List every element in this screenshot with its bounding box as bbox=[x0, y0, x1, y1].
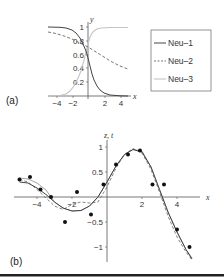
legend-label: Neu–3 bbox=[168, 74, 193, 84]
data-point bbox=[75, 190, 79, 194]
series-fit-2 bbox=[20, 149, 193, 261]
series-fit-3 bbox=[20, 150, 193, 259]
data-point bbox=[39, 188, 43, 192]
x-tick-label: −4 bbox=[52, 99, 62, 108]
data-point bbox=[175, 228, 179, 232]
x-axis-label-a: x bbox=[132, 92, 137, 101]
y-tick-label: 1 bbox=[80, 23, 85, 32]
y-tick-label: 0.5 bbox=[92, 168, 104, 177]
data-point bbox=[138, 149, 142, 153]
panel-label-a: (a) bbox=[6, 95, 18, 106]
data-points bbox=[18, 149, 192, 250]
data-point bbox=[102, 183, 106, 187]
y-axis-label-a: y bbox=[89, 15, 94, 24]
data-point bbox=[49, 195, 53, 199]
panel-label-b: (b) bbox=[10, 256, 22, 267]
chart-b: z, t x 1 0.5 −0.5 −1 −4 −2 2 4 bbox=[10, 131, 210, 267]
data-point bbox=[126, 153, 130, 157]
data-point bbox=[114, 163, 118, 167]
data-point bbox=[162, 183, 166, 187]
x-axis-label-b: x bbox=[205, 193, 210, 202]
data-point bbox=[151, 183, 155, 187]
data-point bbox=[18, 178, 22, 182]
series-fit-1 bbox=[20, 150, 193, 260]
x-tick-label: −4 bbox=[32, 200, 42, 209]
y-tick-label: 0.6 bbox=[73, 51, 85, 60]
legend-label: Neu–2 bbox=[168, 56, 193, 66]
y-tick-label: −1 bbox=[94, 243, 104, 252]
x-tick-label: 2 bbox=[140, 200, 145, 209]
x-ticks-b: −4 −2 2 4 bbox=[32, 197, 179, 209]
x-tick-label: −2 bbox=[68, 99, 78, 108]
data-point bbox=[28, 175, 32, 179]
y-tick-label: −0.5 bbox=[87, 218, 103, 227]
data-point bbox=[89, 213, 93, 217]
chart-a: y x 1 0.8 0.6 0.4 0.2 −4 −2 2 4 bbox=[6, 15, 137, 108]
x-tick-label: 4 bbox=[119, 99, 124, 108]
bottom-divider bbox=[0, 274, 224, 277]
data-point bbox=[63, 220, 67, 224]
x-tick-label: −2 bbox=[67, 200, 77, 209]
legend: Neu–1 Neu–2 Neu–3 bbox=[151, 30, 211, 91]
legend-label: Neu–1 bbox=[168, 38, 193, 48]
figure: y x 1 0.8 0.6 0.4 0.2 −4 −2 2 4 bbox=[0, 0, 224, 279]
y-tick-label: 1 bbox=[99, 143, 104, 152]
y-axis-label-b: z, t bbox=[103, 131, 114, 140]
x-tick-label: 2 bbox=[103, 99, 108, 108]
data-point bbox=[188, 245, 192, 249]
x-tick-label: 4 bbox=[175, 200, 180, 209]
